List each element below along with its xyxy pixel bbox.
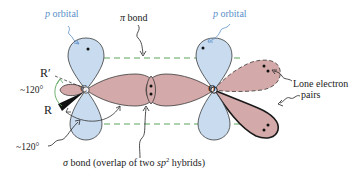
leader-pi-bond — [137, 25, 143, 54]
lone-pair-top-electron-1 — [263, 65, 266, 68]
label-carbon: C — [80, 84, 87, 94]
carbon-p-electron — [87, 48, 90, 51]
leader-lone-pairs-bottom — [280, 96, 300, 103]
label-sigma-text-after: hybrids) — [169, 157, 205, 168]
angle-arc-bottom-arrow-left — [66, 108, 71, 112]
label-oxygen: O — [208, 84, 216, 94]
label-lone-pairs-line2: pairs — [301, 90, 320, 100]
sigma-electron-1 — [150, 85, 153, 88]
carbon-sigma-hybrid — [86, 74, 156, 106]
label-angle-top: ~120° — [20, 86, 43, 96]
label-pi-bond: π bond — [120, 13, 148, 23]
oxygen-sigma-hybrid — [146, 74, 214, 106]
oxygen-p-electron — [202, 47, 205, 50]
label-r: R — [44, 104, 52, 116]
lone-pair-bottom-electron-1 — [267, 124, 270, 127]
label-sigma-text-before: bond (overlap of two — [68, 157, 157, 168]
sigma-overlap-region — [147, 76, 156, 104]
label-p-orbital-left: p orbital — [45, 9, 79, 19]
lone-pair-bottom-electron-2 — [263, 129, 266, 132]
label-pi-bond-text: bond — [125, 12, 148, 23]
label-angle-bottom: ~120° — [16, 143, 39, 153]
label-sigma-bond: σ bond (overlap of two sp2 hybrids) — [63, 158, 205, 168]
label-p-orbital-left-text: orbital — [50, 8, 79, 19]
label-sigma-hybrid: sp — [157, 157, 166, 168]
leader-sigma-bond — [140, 108, 147, 158]
sigma-electron-2 — [150, 93, 153, 96]
label-lone-pairs-line1: Lone electron — [293, 79, 348, 89]
label-p-orbital-right: p orbital — [213, 9, 247, 19]
label-r-prime: R′ — [40, 67, 51, 79]
label-p-orbital-right-text: orbital — [218, 8, 247, 19]
lone-pair-top-electron-2 — [267, 70, 270, 73]
